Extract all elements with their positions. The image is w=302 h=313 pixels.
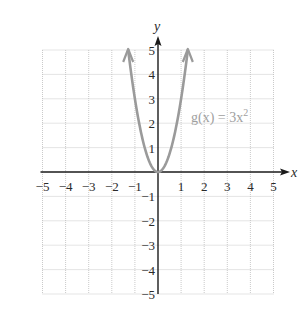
function-label: g(x) = 3x2 (191, 107, 248, 126)
x-tick-label: 1 (178, 179, 185, 194)
y-tick-label: 4 (149, 67, 156, 82)
y-tick-label: −5 (141, 287, 155, 302)
x-tick-label: −4 (59, 179, 73, 194)
x-tick-label: 5 (270, 179, 277, 194)
y-tick-label: −3 (141, 238, 155, 253)
x-tick-label: −2 (105, 179, 119, 194)
x-axis-label: x (290, 165, 298, 180)
y-tick-label: 3 (149, 92, 156, 107)
y-tick-label: −1 (141, 189, 155, 204)
x-tick-label: −3 (82, 179, 96, 194)
function-label-main: g(x) = 3x (191, 110, 243, 126)
y-tick-label: −4 (141, 263, 155, 278)
parabola-graph: −5−4−3−2−11234554321−1−2−3−4−5 x y g(x) … (0, 0, 302, 313)
x-tick-label: 3 (224, 179, 231, 194)
y-tick-label: −2 (141, 214, 155, 229)
x-tick-label: −1 (128, 179, 142, 194)
y-axis-label: y (152, 19, 161, 34)
y-tick-label: 2 (149, 116, 156, 131)
x-tick-label: 2 (201, 179, 208, 194)
x-tick-label: −5 (36, 179, 50, 194)
x-tick-label: 4 (247, 179, 254, 194)
y-tick-label: 1 (149, 141, 156, 156)
function-label-exponent: 2 (243, 107, 248, 118)
y-tick-label: 5 (149, 43, 156, 58)
